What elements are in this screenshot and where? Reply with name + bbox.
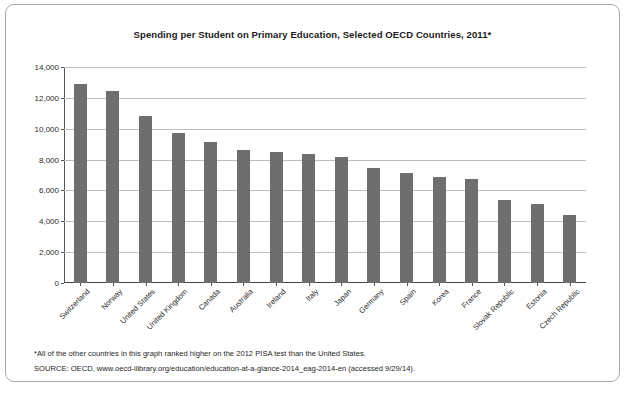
y-tick-label: 10,000 (35, 124, 59, 133)
footnote-text: *All of the other countries in this grap… (34, 349, 594, 358)
gridline (64, 67, 586, 68)
y-tick-label: 12,000 (35, 93, 59, 102)
x-tick-mark (341, 283, 342, 286)
y-tick-mark (61, 283, 64, 284)
x-tick-label-text: Australia (228, 287, 255, 314)
bar (465, 179, 478, 283)
y-tick-mark (61, 252, 64, 253)
x-tick-mark (113, 283, 114, 286)
y-tick-mark (61, 129, 64, 130)
chart-notes: *All of the other countries in this grap… (34, 349, 594, 373)
y-tick-label: 14,000 (35, 63, 59, 72)
x-tick-mark (211, 283, 212, 286)
y-tick-mark (61, 98, 64, 99)
y-tick-mark (61, 190, 64, 191)
x-tick-mark (504, 283, 505, 286)
x-tick-label-text: Switzerland (58, 287, 92, 321)
x-tick-label-text: Japan (332, 287, 353, 308)
bar (335, 157, 348, 284)
bar (237, 150, 250, 283)
x-tick-mark (537, 283, 538, 286)
plot-area: 02,0004,0006,0008,00010,00012,00014,000 … (64, 67, 586, 283)
bar (74, 84, 87, 283)
bar (139, 116, 152, 283)
x-tick-label-text: France (460, 287, 483, 310)
chart-title: Spending per Student on Primary Educatio… (6, 29, 619, 40)
x-tick-label-text: Estonia (524, 287, 548, 311)
x-tick-label-text: Germany (357, 287, 385, 315)
source-text: SOURCE: OECD, www.oecd-ilibrary.org/educ… (34, 364, 594, 373)
bar (204, 142, 217, 283)
bar (172, 133, 185, 283)
y-tick-label: 6,000 (39, 186, 59, 195)
bar (400, 173, 413, 283)
bar (498, 200, 511, 283)
x-tick-label-text: Spain (398, 287, 418, 307)
chart-figure: Spending per Student on Primary Educatio… (5, 4, 620, 382)
x-tick-label-text: Norway (100, 287, 125, 312)
x-tick-mark (146, 283, 147, 286)
x-tick-mark (178, 283, 179, 286)
gridline (64, 98, 586, 99)
y-tick-mark (61, 160, 64, 161)
x-tick-mark (570, 283, 571, 286)
bar (302, 154, 315, 283)
y-tick-label: 0 (55, 279, 59, 288)
y-tick-label: 8,000 (39, 155, 59, 164)
x-tick-label-text: Italy (304, 287, 320, 303)
y-tick-label: 4,000 (39, 217, 59, 226)
x-tick-mark (276, 283, 277, 286)
x-tick-mark (80, 283, 81, 286)
bar (433, 177, 446, 283)
x-tick-mark (407, 283, 408, 286)
x-tick-label-text: Canada (197, 287, 222, 312)
bar (270, 152, 283, 283)
y-tick-mark (61, 221, 64, 222)
x-tick-mark (243, 283, 244, 286)
y-tick-mark (61, 67, 64, 68)
x-tick-label-text: Korea (430, 287, 451, 308)
bar (531, 204, 544, 283)
x-tick-mark (439, 283, 440, 286)
x-tick-label-text: Ireland (265, 287, 288, 310)
bar (563, 215, 576, 283)
x-tick-mark (309, 283, 310, 286)
x-tick-mark (472, 283, 473, 286)
x-tick-mark (374, 283, 375, 286)
bar (367, 168, 380, 283)
y-tick-label: 2,000 (39, 248, 59, 257)
bar (106, 91, 119, 283)
